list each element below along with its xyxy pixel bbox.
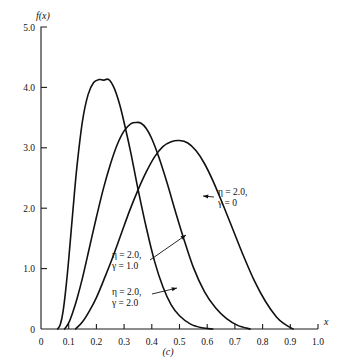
x-axis-label: x [323, 316, 329, 327]
annotation-line2: γ = 0 [217, 198, 237, 208]
annotation-line1: η = 2.0, [112, 287, 141, 297]
y-tick-label: 4.0 [23, 83, 35, 93]
annotation-line2: γ = 2.0 [111, 298, 138, 308]
y-axis-line [41, 27, 47, 329]
x-tick-label: 0.3 [118, 337, 130, 347]
annot-gamma-0: η = 2.0,γ = 0 [203, 187, 247, 208]
annotation-line1: η = 2.0, [112, 250, 141, 260]
y-axis-tick-labels: 01.02.03.04.05.0 [23, 23, 35, 335]
y-tick-label: 2.0 [23, 204, 35, 214]
axes: 00.10.20.30.40.50.60.70.80.91.0 01.02.03… [23, 23, 324, 348]
y-tick-label: 3.0 [23, 143, 35, 153]
x-tick-label: 0.9 [284, 337, 296, 347]
x-tick-label: 0.1 [63, 337, 75, 347]
y-axis-label: f(x) [36, 10, 51, 22]
y-axis-ticks [41, 87, 47, 268]
x-tick-label: 0.4 [146, 337, 158, 347]
x-tick-label: 1.0 [312, 337, 324, 347]
annotation-leader [150, 235, 186, 260]
x-tick-label: 0.8 [257, 337, 269, 347]
weibull-pdf-figure: 00.10.20.30.40.50.60.70.80.91.0 01.02.03… [0, 0, 337, 363]
x-tick-label: 0.2 [90, 337, 102, 347]
chart-canvas: 00.10.20.30.40.50.60.70.80.91.0 01.02.03… [0, 0, 337, 363]
x-tick-label: 0.6 [201, 337, 213, 347]
figure-caption: (c) [162, 346, 174, 358]
x-tick-label: 0.7 [229, 337, 241, 347]
annotation-arrowhead [181, 235, 186, 240]
data-curves [58, 79, 293, 329]
annotation-line2: γ = 1.0 [111, 261, 138, 271]
x-axis-tick-labels: 00.10.20.30.40.50.60.70.80.91.0 [39, 337, 325, 347]
x-tick-label: 0.5 [174, 337, 186, 347]
x-tick-label: 0 [39, 337, 44, 347]
y-tick-label: 1.0 [23, 264, 35, 274]
annotation-line1: η = 2.0, [218, 187, 247, 197]
y-tick-label: 5.0 [23, 23, 35, 33]
y-tick-label: 0 [30, 325, 35, 335]
